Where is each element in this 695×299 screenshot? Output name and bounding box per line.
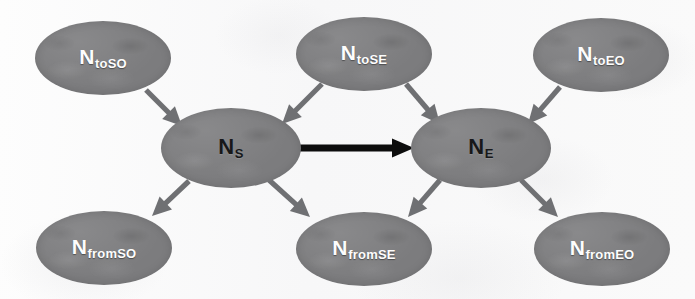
node-subscript: toEO [593, 53, 625, 68]
edge-E-to-fromSE [408, 180, 440, 217]
node-n-to-eo[interactable]: NtoEO [533, 18, 669, 92]
node-base-symbol: N [79, 45, 94, 68]
node-subscript: fromSE [348, 247, 395, 262]
node-base-symbol: N [570, 236, 585, 259]
edge-shaft [406, 84, 429, 111]
edge-S-to-fromSE [269, 180, 310, 217]
node-n-s[interactable]: NS [161, 108, 301, 188]
edge-S-to-E [300, 139, 414, 158]
node-base-symbol: N [468, 134, 484, 159]
node-n-from-se[interactable]: NfromSE [296, 212, 432, 286]
node-n-from-eo[interactable]: NfromEO [534, 212, 670, 286]
edge-shaft [164, 181, 189, 204]
node-subscript: S [235, 146, 244, 161]
node-subscript: toSO [95, 56, 127, 71]
node-base-symbol: N [341, 41, 356, 64]
edge-shaft [419, 180, 440, 204]
node-n-from-so[interactable]: NfromSO [36, 211, 172, 285]
node-n-e[interactable]: NE [411, 108, 551, 188]
node-subscript: E [485, 146, 494, 161]
edge-shaft [521, 180, 546, 205]
node-subscript: fromSO [88, 246, 137, 261]
edge-shaft [539, 87, 560, 111]
edge-S-to-fromSO [152, 181, 189, 216]
node-n-to-se[interactable]: NtoSE [296, 17, 432, 91]
edge-toEO-to-E [528, 87, 560, 124]
edge-shaft [294, 84, 322, 112]
node-label-n-from-se: NfromSE [332, 237, 395, 261]
node-label-n-to-se: NtoSE [341, 42, 387, 66]
node-base-symbol: N [577, 42, 592, 65]
edge-shaft [146, 90, 170, 114]
edge-shaft [269, 180, 297, 206]
edge-E-to-fromEO [521, 180, 558, 217]
node-label-n-from-so: NfromSO [72, 236, 137, 260]
node-base-symbol: N [332, 236, 347, 259]
node-label-n-from-eo: NfromEO [570, 237, 635, 261]
node-label-n-to-so: NtoSO [79, 46, 127, 70]
node-label-n-to-eo: NtoEO [577, 43, 625, 67]
node-label-n-s: NS [218, 136, 243, 160]
node-label-n-e: NE [468, 136, 493, 160]
node-base-symbol: N [72, 235, 87, 258]
node-subscript: toSE [357, 52, 387, 67]
edge-toSE-to-S [282, 84, 322, 124]
node-subscript: fromEO [586, 247, 635, 262]
diagram-canvas: NtoSO NtoSE NtoEO NS NE NfromSO [0, 0, 695, 299]
node-n-to-so[interactable]: NtoSO [35, 21, 171, 95]
node-base-symbol: N [218, 134, 234, 159]
edge-toSO-to-S [146, 90, 182, 126]
